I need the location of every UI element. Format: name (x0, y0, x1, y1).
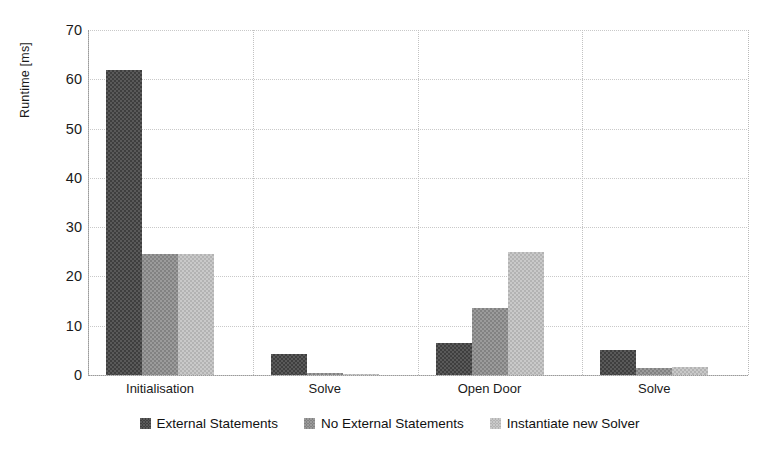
y-tick-label: 10 (32, 318, 82, 334)
y-tick-label: 0 (32, 367, 82, 383)
bar-open-door-series-2 (508, 252, 544, 375)
y-tick-label: 50 (32, 121, 82, 137)
x-tick-label: Open Door (458, 381, 522, 396)
legend-label: No External Statements (321, 416, 464, 431)
x-tick-label: Initialisation (126, 381, 194, 396)
y-tick-label: 20 (32, 268, 82, 284)
y-tick-label: 40 (32, 170, 82, 186)
gridline-vertical (253, 30, 254, 375)
legend-swatch-icon (140, 418, 151, 429)
y-tick-label: 70 (32, 22, 82, 38)
x-axis-line (88, 375, 748, 376)
y-tick-label: 30 (32, 219, 82, 235)
y-axis-line (88, 30, 89, 376)
legend-item-0[interactable]: External Statements (140, 416, 279, 431)
x-tick-label: Solve (638, 381, 671, 396)
bar-solve-series-1 (636, 368, 672, 375)
chart-legend: External StatementsNo External Statement… (0, 416, 779, 431)
legend-swatch-icon (304, 418, 315, 429)
legend-item-2[interactable]: Instantiate new Solver (490, 416, 640, 431)
x-tick-label: Solve (308, 381, 341, 396)
bar-initialisation-series-1 (142, 254, 178, 375)
legend-swatch-icon (490, 418, 501, 429)
y-axis-tick-labels: 010203040506070 (22, 30, 82, 375)
legend-label: External Statements (157, 416, 279, 431)
chart-figure: Runtime [ms] 010203040506070 Initialisat… (0, 0, 779, 455)
y-tick-label: 60 (32, 71, 82, 87)
gridline-vertical (582, 30, 583, 375)
bar-open-door-series-0 (436, 343, 472, 375)
plot-area (88, 30, 747, 375)
bar-solve-series-0 (271, 354, 307, 375)
legend-label: Instantiate new Solver (507, 416, 640, 431)
bar-solve-series-0 (600, 350, 636, 375)
bar-open-door-series-1 (472, 308, 508, 375)
bar-initialisation-series-2 (178, 254, 214, 375)
bar-solve-series-2 (672, 367, 708, 375)
legend-item-1[interactable]: No External Statements (304, 416, 464, 431)
gridline-vertical (418, 30, 419, 375)
bar-initialisation-series-0 (106, 70, 142, 375)
